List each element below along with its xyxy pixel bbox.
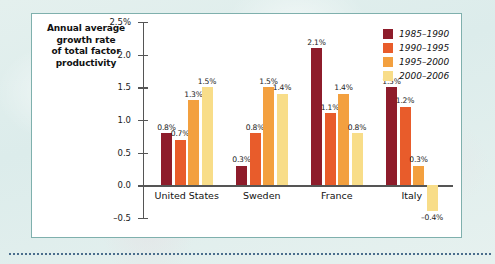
bar: [400, 107, 411, 185]
category-label: Italy: [352, 190, 472, 201]
y-tick-0: –0.5: [138, 218, 148, 219]
legend: 1985–19901990–19951995–20002000–2006: [383, 27, 449, 83]
bar: [311, 48, 322, 185]
bar: [352, 133, 363, 185]
bar: [277, 94, 288, 185]
legend-label-0: 1985–1990: [399, 29, 449, 39]
y-tick-3: 1.0: [138, 120, 148, 121]
bar: [413, 166, 424, 186]
legend-swatch-0: [383, 29, 393, 39]
legend-label-2: 1995–2000: [399, 57, 449, 67]
bar: [263, 87, 274, 185]
bar-value-label: 1.3%: [184, 90, 203, 99]
bar-value-label: –0.4%: [421, 213, 443, 222]
legend-item-3: 2000–2006: [383, 69, 449, 83]
bar-value-label: 1.5%: [198, 77, 217, 86]
y-axis-title: Annual averagegrowth rateof total factor…: [38, 23, 134, 69]
y-tick-label-2: 0.5: [117, 148, 131, 158]
y-tick-1: 0.0: [138, 185, 148, 186]
legend-item-1: 1990–1995: [383, 41, 449, 55]
dotted-rule-divider: [8, 253, 491, 255]
bar-value-label: 0.3%: [232, 155, 251, 164]
y-tick-label-4: 1.5: [117, 82, 131, 92]
bar-value-label: 0.8%: [246, 123, 265, 132]
bar: [175, 140, 186, 186]
y-tick-5: 2.0: [138, 55, 148, 56]
y-tick-2: 0.5: [138, 153, 148, 154]
legend-item-0: 1985–1990: [383, 27, 449, 41]
y-tick-label-6: 2.5%: [109, 17, 131, 27]
bar: [325, 113, 336, 185]
chart-panel: Annual averagegrowth rateof total factor…: [31, 13, 462, 238]
y-tick-label-5: 2.0: [117, 50, 131, 60]
bar: [161, 133, 172, 185]
bar: [250, 133, 261, 185]
bar: [236, 166, 247, 186]
y-tick-label-3: 1.0: [117, 115, 131, 125]
bar-value-label: 0.8%: [348, 123, 367, 132]
legend-swatch-1: [383, 43, 393, 53]
legend-swatch-2: [383, 57, 393, 67]
bar: [338, 94, 349, 185]
zero-baseline: [143, 185, 453, 186]
y-tick-label-0: –0.5: [113, 213, 131, 223]
legend-label-1: 1990–1995: [399, 43, 449, 53]
bar-value-label: 1.4%: [334, 83, 353, 92]
y-axis-title-line-1: growth rate: [38, 35, 134, 47]
y-tick-label-1: 0.0: [117, 180, 131, 190]
bar-value-label: 1.4%: [273, 83, 292, 92]
legend-swatch-3: [383, 71, 393, 81]
bar: [202, 87, 213, 185]
bar: [188, 100, 199, 185]
bar-value-label: 1.1%: [321, 103, 340, 112]
legend-item-2: 1995–2000: [383, 55, 449, 69]
bar-value-label: 1.2%: [396, 96, 415, 105]
bar-value-label: 2.1%: [307, 38, 326, 47]
y-tick-6: 2.5%: [138, 22, 148, 23]
legend-label-3: 2000–2006: [399, 71, 449, 81]
bar-value-label: 0.7%: [171, 129, 190, 138]
y-tick-4: 1.5: [138, 87, 148, 88]
bar-value-label: 0.3%: [409, 155, 428, 164]
